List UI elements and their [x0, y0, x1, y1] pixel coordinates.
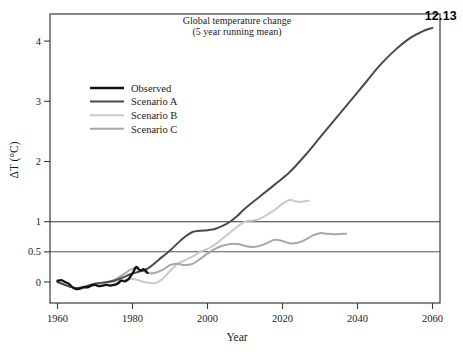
figure-root: 196019802000202020402060 00.51234 Global…	[0, 0, 463, 352]
y-tick-label: 3	[36, 96, 41, 107]
x-tick-label: 2000	[197, 313, 218, 324]
y-axis-title: ΔT (°C)	[8, 141, 21, 178]
y-tick-label: 2	[36, 156, 41, 167]
x-tick-label: 2060	[422, 313, 443, 324]
y-tick-label: 0.5	[28, 246, 41, 257]
legend-label-scenario-a: Scenario A	[131, 96, 178, 107]
chart-subtitle: (5 year running mean)	[192, 26, 281, 38]
x-axis-title: Year	[226, 331, 247, 343]
figure-number: 12.13	[425, 9, 457, 23]
x-tick-label: 1980	[122, 313, 143, 324]
x-tick-label: 1960	[47, 313, 68, 324]
legend-label-scenario-c: Scenario C	[131, 124, 177, 135]
y-tick-label: 0	[36, 277, 41, 288]
y-tick-label: 4	[36, 36, 42, 47]
y-tick-label: 1	[36, 216, 41, 227]
x-axis-ticks: 196019802000202020402060	[47, 303, 443, 324]
legend-label-observed: Observed	[131, 83, 172, 94]
temperature-chart: 196019802000202020402060 00.51234 Global…	[0, 0, 463, 352]
x-tick-label: 2040	[347, 313, 368, 324]
y-axis-ticks: 00.51234	[28, 36, 50, 288]
chart-title: Global temperature change	[183, 15, 292, 26]
legend-label-scenario-b: Scenario B	[131, 110, 177, 121]
x-tick-label: 2020	[272, 313, 293, 324]
plot-background	[50, 14, 440, 303]
